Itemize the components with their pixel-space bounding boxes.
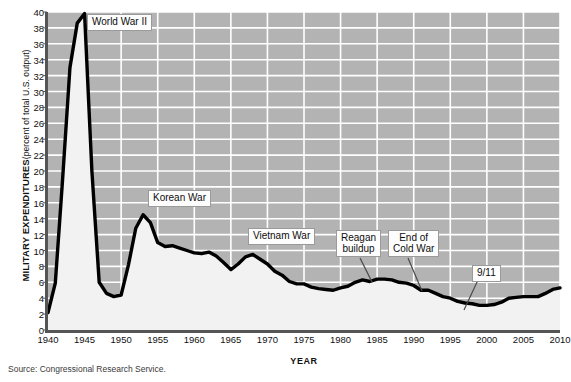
- x-axis-tick-label: 1950: [111, 334, 132, 345]
- source-note: Source: Congressional Research Service.: [8, 364, 166, 374]
- annotation-label-reagan-buildup: Reaganbuildup: [336, 230, 381, 257]
- annotation-label-end-of-cold-war: End ofCold War: [388, 230, 439, 257]
- x-axis-tick-label: 1995: [440, 334, 461, 345]
- y-axis-ticks: [43, 12, 47, 330]
- annotation-label-line: World War II: [92, 16, 147, 28]
- annotation-label-world-war-2: World War II: [87, 14, 152, 31]
- x-axis-tick-label: 1975: [293, 334, 314, 345]
- annotation-label-line: Cold War: [393, 243, 434, 254]
- x-axis-tick-label: 1980: [330, 334, 351, 345]
- x-axis-tick-labels: 1940194519501955196019651970197519801985…: [0, 334, 566, 348]
- annotation-label-line: Reagan: [341, 232, 376, 243]
- annotation-label-line: Korean War: [153, 192, 206, 204]
- x-axis-tick-label: 1955: [147, 334, 168, 345]
- x-axis-title-text: YEAR: [290, 356, 317, 366]
- x-axis-tick-label: 1965: [220, 334, 241, 345]
- annotation-label-line: buildup: [341, 243, 376, 254]
- x-axis-tick-label: 1985: [367, 334, 388, 345]
- annotation-label-line: 9/11: [477, 267, 496, 279]
- x-axis-tick-label: 2010: [549, 334, 570, 345]
- annotation-label-nine-eleven: 9/11: [472, 265, 501, 282]
- annotation-label-line: End of: [393, 232, 434, 243]
- x-axis-tick-label: 2005: [513, 334, 534, 345]
- annotation-label-line: Vietnam War: [253, 230, 310, 242]
- x-axis-tick-label: 1945: [74, 334, 95, 345]
- annotation-label-vietnam-war: Vietnam War: [248, 228, 315, 245]
- x-axis-tick-label: 2000: [476, 334, 497, 345]
- x-axis-tick-label: 1990: [403, 334, 424, 345]
- x-axis-tick-label: 1940: [37, 334, 58, 345]
- annotation-label-korean-war: Korean War: [148, 190, 211, 207]
- x-axis-tick-label: 1960: [184, 334, 205, 345]
- x-axis-tick-label: 1970: [257, 334, 278, 345]
